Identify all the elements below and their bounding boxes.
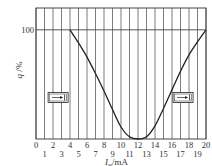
- y-axis-label: q /%: [14, 61, 24, 78]
- x-tick-label: 13: [142, 149, 151, 159]
- x-tick-label: 18: [185, 140, 194, 150]
- x-tick-label: 10: [117, 140, 126, 150]
- y-axis-ticks: 100: [21, 25, 34, 35]
- valve-flow-chart: 02468101214161820135791113151719 100 Iw/…: [0, 0, 212, 166]
- x-tick-label: 20: [202, 140, 211, 150]
- x-tick-label: 6: [85, 140, 89, 150]
- plot-grid: [36, 8, 206, 139]
- x-tick-label: 0: [34, 140, 38, 150]
- x-tick-label: 12: [134, 140, 143, 150]
- x-tick-label: 1: [42, 149, 46, 159]
- x-tick-label: 2: [51, 140, 55, 150]
- valve-left-closed-icon: [48, 93, 68, 103]
- y-tick-label: 100: [21, 25, 34, 35]
- x-tick-label: 3: [59, 149, 63, 159]
- x-axis-label: Iw/mA: [104, 157, 129, 166]
- x-tick-label: 17: [176, 149, 185, 159]
- x-tick-label: 15: [159, 149, 168, 159]
- valve-right-closed-icon: [173, 93, 193, 103]
- x-tick-label: 5: [76, 149, 80, 159]
- x-tick-label: 19: [193, 149, 202, 159]
- x-tick-label: 16: [168, 140, 177, 150]
- x-tick-label: 8: [102, 140, 106, 150]
- x-tick-label: 4: [68, 140, 73, 150]
- x-tick-label: 7: [93, 149, 97, 159]
